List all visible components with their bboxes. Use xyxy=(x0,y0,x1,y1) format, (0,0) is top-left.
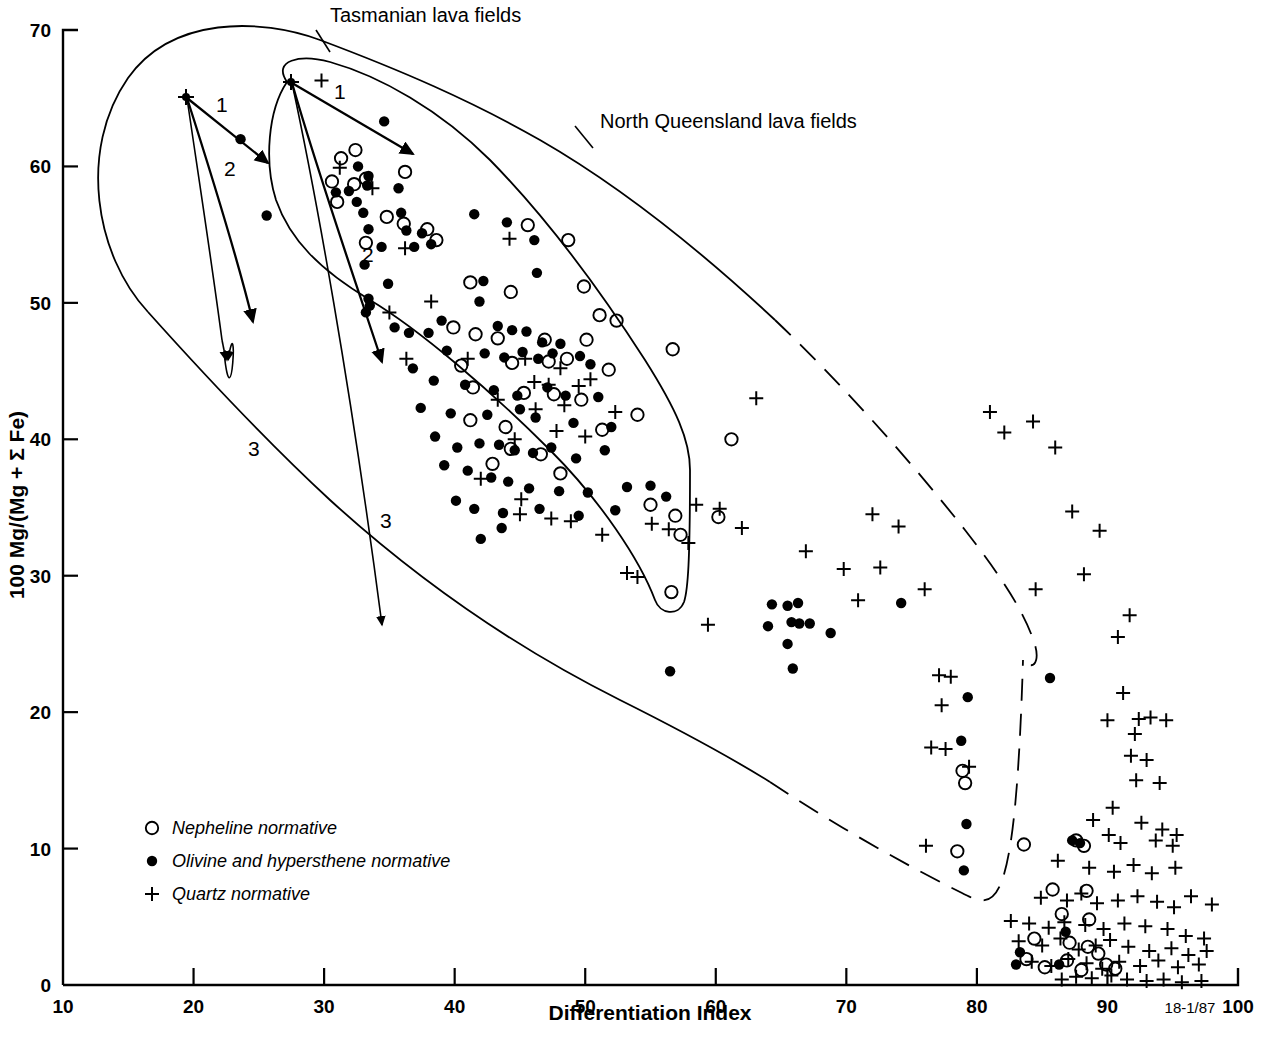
data-point-quartz xyxy=(944,670,958,684)
vector-label-1-left: 1 xyxy=(216,93,228,116)
data-point-quartz xyxy=(1069,970,1083,984)
data-point-quartz xyxy=(701,618,715,632)
data-point-quartz xyxy=(508,432,522,446)
vector-label-1-right: 1 xyxy=(334,80,346,103)
data-point-quartz xyxy=(1132,712,1146,726)
data-point-quartz xyxy=(1200,944,1214,958)
data-point-olivine xyxy=(430,431,440,441)
y-tick-label: 30 xyxy=(30,566,51,587)
data-point-olivine xyxy=(379,116,389,126)
data-point-nepheline xyxy=(499,421,511,433)
data-point-olivine xyxy=(517,347,527,357)
x-tick-label: 40 xyxy=(444,996,465,1017)
nq-envelope-lower-dashed xyxy=(770,660,1023,900)
data-point-quartz xyxy=(550,424,564,438)
data-point-olivine xyxy=(529,235,539,245)
data-point-quartz xyxy=(1153,776,1167,790)
data-point-nepheline xyxy=(951,845,963,857)
data-point-quartz xyxy=(892,520,906,534)
data-point-nepheline xyxy=(447,321,459,333)
data-point-quartz xyxy=(1111,630,1125,644)
data-point-olivine xyxy=(606,422,616,432)
data-point-quartz xyxy=(1022,917,1036,931)
legend: Nepheline normativeOlivine and hypersthe… xyxy=(145,818,450,904)
data-point-olivine xyxy=(767,599,777,609)
data-point-nepheline xyxy=(603,364,615,376)
data-point-quartz xyxy=(1159,713,1173,727)
data-point-nepheline xyxy=(1039,961,1051,973)
vector-label-3-right: 3 xyxy=(380,509,392,532)
tasmanian-label-leader-tick xyxy=(316,30,330,52)
data-point-olivine xyxy=(474,296,484,306)
data-point-olivine xyxy=(361,307,371,317)
data-point-quartz xyxy=(1175,975,1189,989)
y-tick-label: 70 xyxy=(30,20,51,41)
data-point-olivine xyxy=(460,380,470,390)
data-point-olivine xyxy=(568,418,578,428)
data-point-olivine xyxy=(515,404,525,414)
data-point-olivine xyxy=(417,228,427,238)
data-point-quartz xyxy=(1097,922,1111,936)
data-point-olivine xyxy=(376,242,386,252)
data-point-quartz xyxy=(1093,524,1107,538)
data-point-olivine xyxy=(825,628,835,638)
data-point-olivine xyxy=(396,208,406,218)
data-point-quartz xyxy=(1035,938,1049,952)
vector-label-2-left: 2 xyxy=(224,157,236,180)
data-point-olivine xyxy=(476,534,486,544)
data-point-quartz xyxy=(557,398,571,412)
vector-arrows-tasmanian: 1 2 3 xyxy=(178,89,268,460)
data-point-nepheline xyxy=(505,286,517,298)
data-point-quartz xyxy=(503,232,517,246)
data-point-quartz xyxy=(1168,861,1182,875)
data-point-quartz xyxy=(1167,900,1181,914)
data-point-quartz xyxy=(837,562,851,576)
data-point-olivine xyxy=(463,465,473,475)
data-point-olivine xyxy=(560,390,570,400)
legend-label-0: Nepheline normative xyxy=(172,818,337,838)
data-point-quartz xyxy=(1144,711,1158,725)
x-tick-label: 90 xyxy=(1097,996,1118,1017)
data-point-quartz xyxy=(1133,959,1147,973)
data-point-olivine xyxy=(344,186,354,196)
y-axis-tick-labels: 010203040506070 xyxy=(30,20,51,996)
y-axis-title: 100 Mg/(Mg + Σ Fe) xyxy=(5,411,28,599)
data-point-olivine xyxy=(610,505,620,515)
data-point-olivine xyxy=(416,403,426,413)
data-point-quartz xyxy=(583,372,597,386)
data-point-olivine xyxy=(389,322,399,332)
data-point-olivine xyxy=(439,460,449,470)
data-point-nepheline xyxy=(959,777,971,789)
data-point-nepheline xyxy=(492,332,504,344)
data-point-quartz xyxy=(1164,941,1178,955)
data-point-quartz xyxy=(474,472,488,486)
data-point-nepheline xyxy=(1028,932,1040,944)
data-point-olivine xyxy=(961,819,971,829)
data-point-quartz xyxy=(315,73,329,87)
data-point-olivine xyxy=(498,508,508,518)
data-point-olivine xyxy=(503,476,513,486)
data-point-quartz xyxy=(1060,893,1074,907)
y-tick-label: 10 xyxy=(30,839,51,860)
data-point-nepheline xyxy=(725,433,737,445)
data-point-olivine xyxy=(661,491,671,501)
data-point-quartz xyxy=(1012,934,1026,948)
data-point-olivine xyxy=(533,354,543,364)
data-point-olivine xyxy=(478,276,488,286)
x-tick-label: 20 xyxy=(183,996,204,1017)
data-point-olivine xyxy=(896,598,906,608)
nq-envelope-upper-dashed xyxy=(775,320,1037,665)
data-point-olivine xyxy=(788,663,798,673)
data-point-olivine xyxy=(534,504,544,514)
data-point-olivine xyxy=(571,453,581,463)
data-point-quartz xyxy=(382,305,396,319)
data-point-quartz xyxy=(424,294,438,308)
data-point-nepheline xyxy=(674,529,686,541)
data-point-quartz xyxy=(983,405,997,419)
data-point-nepheline xyxy=(1018,838,1030,850)
data-point-olivine xyxy=(446,408,456,418)
data-point-nepheline xyxy=(554,467,566,479)
data-point-quartz xyxy=(514,492,528,506)
data-point-quartz xyxy=(1205,898,1219,912)
data-point-olivine xyxy=(521,326,531,336)
